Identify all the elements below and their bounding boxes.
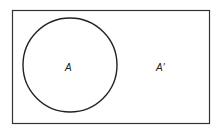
set-a-label: A xyxy=(64,62,72,73)
venn-diagram: A A′ xyxy=(0,0,218,132)
complement-label: A′ xyxy=(155,62,166,73)
